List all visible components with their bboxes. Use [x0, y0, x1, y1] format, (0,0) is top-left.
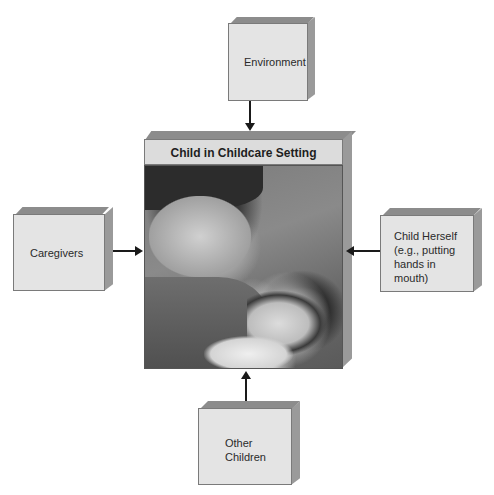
arrow-right-icon — [135, 246, 143, 256]
photo-blanket — [204, 336, 293, 369]
caregivers-label: Caregivers — [30, 246, 83, 260]
child-herself-node-side-bevel — [473, 208, 482, 292]
environment-label: Environment — [244, 55, 306, 69]
caregiver-infant-photo — [144, 165, 343, 369]
arrow-left-icon — [346, 246, 354, 256]
arrow-down-icon — [245, 123, 255, 131]
environment-arrow — [249, 101, 251, 125]
child-herself-label: Child Herself (e.g., putting hands in mo… — [394, 229, 468, 285]
caregivers-arrow — [113, 250, 137, 252]
center-title: Child in Childcare Setting — [144, 139, 343, 165]
other-children-label: Other Children — [225, 436, 275, 464]
arrow-up-icon — [241, 371, 251, 379]
photo-adult-face — [149, 196, 251, 277]
child-herself-arrow — [354, 250, 380, 252]
other-children-node-side-bevel — [291, 401, 300, 485]
caregivers-node-side-bevel — [104, 207, 113, 291]
other-children-arrow — [245, 378, 247, 402]
